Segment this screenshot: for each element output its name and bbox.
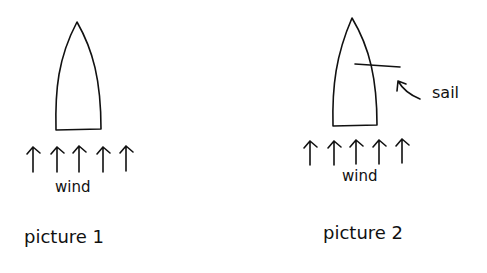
wind-label-1: wind [55, 178, 90, 196]
wind-arrows-2 [304, 139, 409, 165]
caption-picture-2: picture 2 [323, 222, 403, 243]
wind-label-2: wind [342, 167, 377, 185]
wind-arrows-1 [27, 146, 133, 172]
sail-line [355, 64, 400, 67]
caption-picture-1: picture 1 [24, 226, 104, 247]
sail-pointer-arrow [397, 81, 420, 99]
sail-label: sail [432, 83, 459, 102]
boat-hull-2 [333, 18, 377, 126]
boat-hull-1 [56, 22, 101, 130]
